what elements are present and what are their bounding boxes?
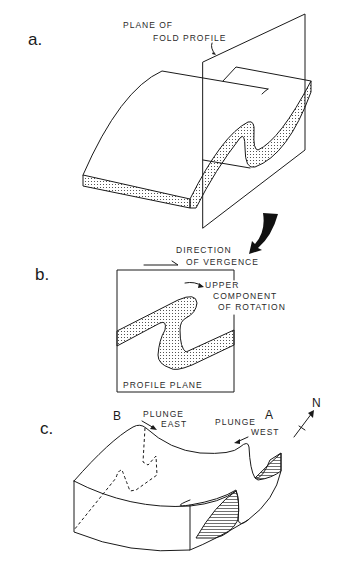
rotation-arrow-head — [198, 283, 204, 288]
plunge-west-line1: PLUNGE — [215, 417, 256, 427]
plunge-west-line2: WEST — [251, 427, 280, 437]
profile-plane-label: PROFILE PLANE — [123, 380, 203, 390]
plunge-east-line2: EAST — [161, 419, 187, 429]
upper-label-line1: UPPER — [205, 280, 239, 290]
panel-a-label: a. — [28, 30, 42, 49]
fold-diagram: a. PLANE OF FOLD PROFILE b. DIRECTION OF… — [0, 0, 346, 568]
folded-layer — [190, 81, 311, 208]
upper-label-line3: OF ROTATION — [218, 302, 286, 312]
vergence-label-line1: DIRECTION — [176, 245, 232, 255]
plunging-fold-block — [74, 425, 281, 551]
back-block-top — [223, 67, 311, 81]
north-arrow-icon — [294, 413, 312, 437]
profile-fold-layer — [117, 297, 234, 370]
panel-b-label: b. — [35, 265, 49, 284]
transition-arrow-icon — [249, 213, 278, 254]
fold-hinge-line — [262, 89, 268, 94]
plane-label-line1: PLANE OF — [123, 20, 173, 30]
vergence-arrow-icon — [144, 261, 178, 265]
block-top-surface — [83, 71, 268, 175]
panel-c-label: c. — [40, 419, 53, 438]
hatched-face-upper — [255, 453, 281, 480]
plunge-east-line1: PLUNGE — [143, 409, 184, 419]
north-label: N — [312, 396, 321, 410]
hidden-fold-outline — [74, 428, 157, 530]
plane-label-line2: FOLD PROFILE — [153, 33, 226, 43]
point-b-label: B — [113, 409, 121, 423]
point-a-label: A — [265, 408, 273, 422]
plunge-west-arrowhead — [234, 439, 240, 444]
upper-label-line2: COMPONENT — [213, 291, 277, 301]
block-front-layer — [83, 175, 190, 208]
vergence-label-line2: OF VERGENCE — [186, 257, 259, 267]
